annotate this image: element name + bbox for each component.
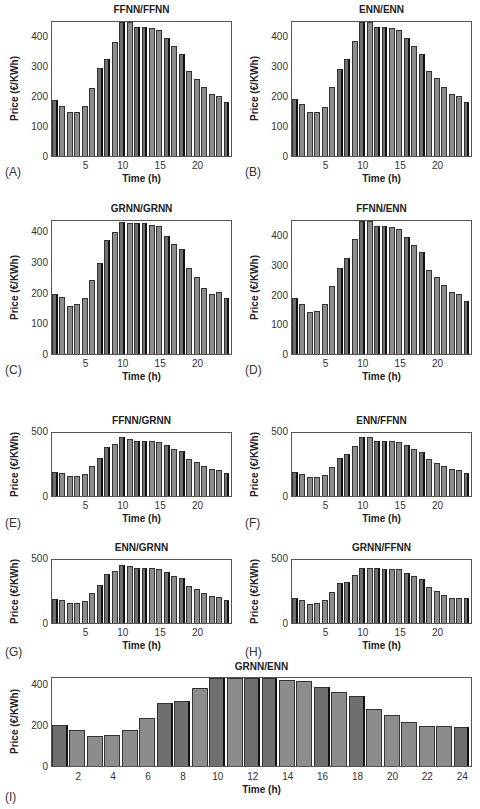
x-tick-label: 6 bbox=[138, 771, 158, 782]
bar-hour-12 bbox=[244, 678, 260, 766]
bar-hour-9 bbox=[192, 688, 208, 766]
x-tick-label: 14 bbox=[278, 771, 298, 782]
x-axis-label: Time (h) bbox=[51, 784, 472, 795]
bar-hour-6 bbox=[139, 718, 155, 766]
x-tick-label: 4 bbox=[103, 771, 123, 782]
bar-hour-19 bbox=[366, 709, 382, 766]
bar-hour-23 bbox=[436, 726, 452, 766]
bar-hour-5 bbox=[122, 730, 138, 766]
bar-hour-2 bbox=[69, 730, 85, 766]
bar-hour-15 bbox=[296, 681, 312, 766]
panel-label: (I) bbox=[5, 790, 16, 804]
bar-hour-7 bbox=[157, 703, 173, 766]
bar-hour-10 bbox=[209, 678, 225, 766]
bar-hour-14 bbox=[279, 680, 295, 766]
bar-hour-18 bbox=[349, 696, 365, 766]
y-tick-label: 0 bbox=[20, 761, 48, 772]
x-tick-label: 22 bbox=[417, 771, 437, 782]
y-tick-label: 400 bbox=[20, 679, 48, 690]
x-tick-label: 20 bbox=[382, 771, 402, 782]
x-tick-label: 12 bbox=[243, 771, 263, 782]
x-tick-label: 2 bbox=[68, 771, 88, 782]
y-axis-label: Price (€/KWh) bbox=[9, 677, 20, 767]
bar-hour-17 bbox=[331, 692, 347, 766]
x-tick-label: 18 bbox=[348, 771, 368, 782]
y-tick-label: 200 bbox=[20, 720, 48, 731]
bar-hour-22 bbox=[419, 726, 435, 766]
bar-hour-13 bbox=[262, 678, 278, 766]
bar-hour-16 bbox=[314, 687, 330, 766]
x-tick-label: 16 bbox=[313, 771, 333, 782]
bar-hour-1 bbox=[52, 725, 68, 766]
x-tick-label: 10 bbox=[208, 771, 228, 782]
bar-hour-3 bbox=[87, 736, 103, 766]
bar-hour-8 bbox=[174, 701, 190, 766]
x-tick-label: 8 bbox=[173, 771, 193, 782]
plot-area bbox=[51, 677, 472, 767]
chart-panel-i: GRNN/ENN020040024681012141618202224Time … bbox=[0, 0, 480, 809]
chart-title: GRNN/ENN bbox=[51, 661, 472, 672]
bar-hour-21 bbox=[401, 722, 417, 766]
x-tick-label: 24 bbox=[452, 771, 472, 782]
bar-hour-20 bbox=[384, 715, 400, 766]
bar-hour-11 bbox=[227, 678, 243, 766]
bar-hour-24 bbox=[454, 727, 470, 766]
bar-hour-4 bbox=[104, 735, 120, 766]
